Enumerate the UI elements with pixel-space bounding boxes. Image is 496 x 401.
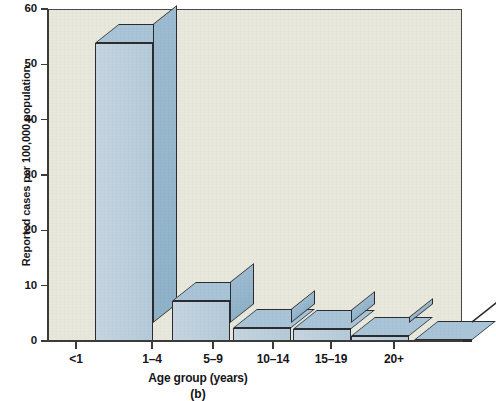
y-axis-tick-label: 0 (5, 334, 37, 346)
x-axis-tick (151, 342, 153, 349)
x-axis-tick (75, 342, 77, 349)
x-axis-title: Age group (years) (48, 371, 348, 385)
bar-top-face (414, 321, 496, 340)
bar-front-face (95, 43, 153, 342)
bar-side-face (472, 302, 496, 323)
y-axis-tick-label: 60 (5, 2, 37, 14)
x-axis-tick (272, 342, 274, 349)
y-axis-tick (41, 8, 48, 10)
bar-5-9 (233, 10, 291, 342)
y-axis-tick (41, 64, 48, 66)
y-axis-tick (41, 340, 48, 342)
bar--1 (95, 10, 153, 342)
plot-area (48, 9, 462, 341)
y-axis-tick (41, 119, 48, 121)
bar-front-face (172, 301, 230, 342)
x-axis-tick (212, 342, 214, 349)
x-axis-tick-label: <1 (41, 352, 111, 366)
x-axis-tick-label: 15–19 (296, 352, 366, 366)
x-axis-tick-label: 1–4 (117, 352, 187, 366)
y-axis-title: Reported cases per 100,000 population (20, 36, 32, 296)
x-axis-tick (330, 342, 332, 349)
figure-caption: (b) (48, 387, 348, 401)
bar-15-19 (351, 10, 409, 342)
y-axis-tick (41, 285, 48, 287)
bar-20- (414, 10, 472, 342)
x-axis-tick-label: 20+ (359, 352, 429, 366)
x-axis-tick (393, 342, 395, 349)
y-axis-tick (41, 174, 48, 176)
y-axis-tick (41, 230, 48, 232)
bar-10-14 (293, 10, 351, 342)
x-axis-line (47, 340, 463, 342)
bar-1-4 (172, 10, 230, 342)
